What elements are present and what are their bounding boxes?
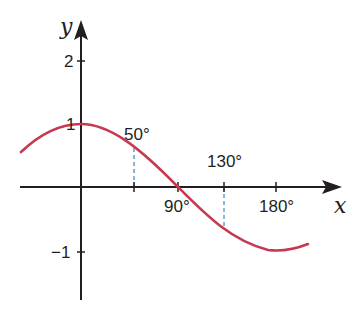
cosine-graph: y x 2 1 −1 50° 90° 130° 180° — [0, 0, 362, 312]
x-axis-label: x — [334, 193, 347, 218]
x-tick-label-130: 130° — [207, 152, 242, 171]
x-tick-label-50: 50° — [124, 125, 150, 144]
y-tick-label-1: 1 — [66, 115, 75, 134]
x-tick-label-90: 90° — [164, 197, 190, 216]
x-tick-label-180: 180° — [259, 197, 294, 216]
y-axis-label: y — [59, 14, 73, 39]
y-tick-label-2: 2 — [64, 52, 73, 71]
y-tick-label-neg1: −1 — [51, 243, 70, 262]
